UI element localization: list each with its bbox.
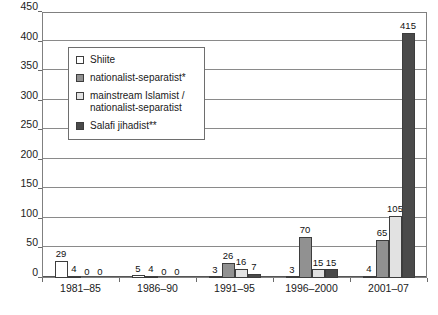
x-tick-label: 2001–07 [350, 282, 427, 294]
legend: Shiitenationalist-separatist*mainstream … [68, 47, 205, 140]
y-tick-label: 450 [4, 0, 38, 12]
legend-item[interactable]: nationalist-separatist* [76, 72, 197, 84]
bar-value-label: 0 [80, 266, 120, 277]
bar-slot: 105 [389, 12, 402, 278]
bar[interactable] [376, 240, 389, 278]
bar[interactable] [402, 33, 415, 278]
bar-slot: 415 [402, 12, 415, 278]
bar[interactable] [248, 274, 261, 278]
legend-item[interactable]: Salafi jihadist** [76, 120, 197, 132]
bar[interactable] [389, 216, 402, 278]
x-tick-mark [273, 278, 274, 282]
bar-value-label: 7 [234, 261, 274, 272]
bar-slot: 26 [222, 12, 235, 278]
x-tick-label: 1996–2000 [273, 282, 350, 294]
bar[interactable] [325, 269, 338, 278]
y-tick-label: 100 [4, 207, 38, 219]
bar-group: 3701515 [273, 12, 350, 278]
y-tick-label: 200 [4, 148, 38, 160]
bar-slot: 16 [235, 12, 248, 278]
y-tick-label: 300 [4, 89, 38, 101]
y-axis: 050100150200250300350400450 [0, 12, 38, 278]
bar[interactable] [132, 275, 145, 278]
bar[interactable] [286, 276, 299, 278]
x-tick-mark [427, 278, 428, 282]
y-tick-label: 350 [4, 59, 38, 71]
bar-slot: 29 [55, 12, 68, 278]
x-tick-mark [196, 278, 197, 282]
x-tick-mark [350, 278, 351, 282]
legend-swatch-icon [76, 122, 84, 130]
bar[interactable] [363, 276, 376, 278]
bar-slot: 15 [312, 12, 325, 278]
y-tick-label: 400 [4, 30, 38, 42]
y-tick-label: 250 [4, 118, 38, 130]
legend-item-label: nationalist-separatist* [90, 72, 186, 84]
bar[interactable] [312, 269, 325, 278]
x-tick-label: 1981–85 [42, 282, 119, 294]
bar-group: 326167 [196, 12, 273, 278]
x-axis: 1981–851986–901991–951996–20002001–07 [42, 282, 427, 302]
legend-item[interactable]: mainstream Islamist / nationalist-separa… [76, 90, 197, 114]
legend-swatch-icon [76, 74, 84, 82]
legend-item[interactable]: Shiite [76, 54, 197, 66]
legend-item-label: mainstream Islamist / nationalist-separa… [90, 90, 184, 114]
bar-slot: 3 [286, 12, 299, 278]
bar-chart: 050100150200250300350400450 294005400326… [0, 0, 438, 315]
bar-slot: 70 [299, 12, 312, 278]
x-tick-label: 1986–90 [119, 282, 196, 294]
bar-value-label: 0 [157, 266, 197, 277]
bar-slot: 65 [376, 12, 389, 278]
bar-slot: 4 [363, 12, 376, 278]
legend-item-label: Salafi jihadist** [90, 120, 157, 132]
bar-value-label: 415 [388, 20, 428, 31]
x-tick-label: 1991–95 [196, 282, 273, 294]
bar-group: 465105415 [350, 12, 427, 278]
y-tick-label: 0 [4, 266, 38, 278]
bar[interactable] [209, 276, 222, 278]
legend-item-label: Shiite [90, 54, 115, 66]
legend-swatch-icon [76, 92, 84, 100]
y-tick-label: 150 [4, 177, 38, 189]
legend-swatch-icon [76, 56, 84, 64]
bar-value-label: 15 [311, 257, 351, 268]
x-tick-mark [119, 278, 120, 282]
bar-slot: 3 [209, 12, 222, 278]
bar-slot: 15 [325, 12, 338, 278]
bar-slot: 7 [248, 12, 261, 278]
x-tick-mark [42, 278, 43, 282]
y-tick-label: 50 [4, 236, 38, 248]
